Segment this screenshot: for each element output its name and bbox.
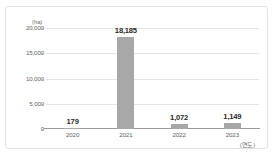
bar-value-label: 1,072 <box>170 113 188 122</box>
y-tick-label: 10,000 <box>10 75 44 82</box>
bar-value-label: 1,149 <box>223 112 241 121</box>
chart-figure: (ha) 05,00010,00015,00020,000 17918,1851… <box>5 6 268 149</box>
bar[interactable] <box>117 37 134 129</box>
y-tick-label: 15,000 <box>10 49 44 56</box>
bar-value-label: 179 <box>67 117 79 126</box>
y-tick-label: 0 <box>10 125 44 132</box>
bar-value-label: 18,185 <box>115 26 137 35</box>
x-category-label: 2020 <box>66 131 79 138</box>
bar[interactable] <box>224 123 241 129</box>
x-axis-category-labels: 2020202120222023 <box>46 131 259 143</box>
bar-series: 17918,1851,0721,149 <box>46 28 259 129</box>
y-tick-mark <box>41 28 44 29</box>
y-tick-mark <box>41 53 44 54</box>
x-category-label: 2021 <box>119 131 132 138</box>
y-tick-label: 20,000 <box>10 24 44 31</box>
y-tick-label: 5,000 <box>10 100 44 107</box>
bar[interactable] <box>64 128 81 129</box>
y-axis-tick-labels: 05,00010,00015,00020,000 <box>6 28 44 129</box>
y-tick-mark <box>41 104 44 105</box>
x-category-label: 2023 <box>226 131 239 138</box>
x-axis-unit-note: (연도) <box>240 140 255 149</box>
y-tick-mark <box>41 79 44 80</box>
bar[interactable] <box>171 124 188 129</box>
x-category-label: 2022 <box>173 131 186 138</box>
